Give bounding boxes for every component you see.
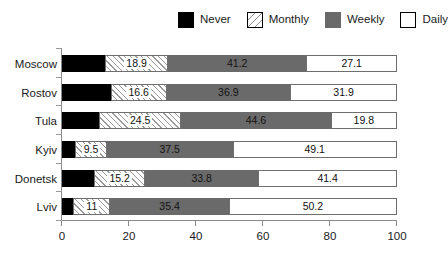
bar-value-label: 37.5 (158, 144, 180, 155)
y-tick-5 (56, 191, 62, 192)
bar-segment-never[interactable] (62, 84, 111, 101)
bar-segment-monthly[interactable]: 18.9 (105, 55, 168, 72)
bar-value-label: 24.5 (128, 115, 152, 126)
legend-swatch-weekly-icon (325, 12, 341, 28)
bar-segment-daily[interactable]: 49.1 (233, 141, 397, 158)
x-tick-label-40: 40 (190, 230, 203, 242)
legend-label-weekly: Weekly (347, 14, 385, 26)
bar-value-label: 41.4 (316, 173, 338, 184)
bar-segment-daily[interactable]: 41.4 (258, 170, 397, 187)
bar-value-label: 9.5 (82, 144, 101, 155)
x-tick-label-80: 80 (324, 230, 337, 242)
legend-label-daily: Daily (422, 14, 448, 26)
legend-label-never: Never (200, 14, 231, 26)
legend-label-monthly: Monthly (269, 14, 309, 26)
legend-item-monthly[interactable]: Monthly (247, 12, 309, 28)
y-category-label-donetsk: Donetsk (15, 173, 57, 185)
y-tick-6 (56, 220, 62, 221)
bar-segment-daily[interactable]: 31.9 (290, 84, 397, 101)
y-tick-4 (56, 163, 62, 164)
bar-segment-weekly[interactable]: 41.2 (168, 55, 306, 72)
x-tick-label-0: 0 (59, 230, 65, 242)
bar-segment-weekly[interactable]: 36.9 (167, 84, 291, 101)
bar-value-label: 11 (84, 201, 99, 212)
bar-value-label: 50.2 (302, 201, 324, 212)
bar-segment-daily[interactable]: 27.1 (306, 55, 397, 72)
chart-legend: Never Monthly Weekly Daily (178, 11, 448, 29)
bar-segment-never[interactable] (62, 141, 75, 158)
legend-swatch-never-icon (178, 12, 194, 28)
bar-value-label: 33.8 (190, 173, 212, 184)
bar-value-label: 18.9 (124, 58, 148, 69)
x-tick-20 (128, 220, 129, 226)
bar-segment-monthly[interactable]: 24.5 (99, 112, 181, 129)
bar-value-label: 44.6 (245, 115, 267, 126)
legend-item-daily[interactable]: Daily (400, 12, 448, 28)
bar-value-label: 15.2 (107, 173, 131, 184)
x-tick-100 (396, 220, 397, 226)
x-tick-label-60: 60 (257, 230, 270, 242)
y-tick-1 (56, 77, 62, 78)
bar-row: 1135.450.2 (62, 198, 397, 215)
bar-segment-monthly[interactable]: 15.2 (94, 170, 145, 187)
y-tick-2 (56, 105, 62, 106)
bar-segment-monthly[interactable]: 11 (73, 198, 110, 215)
legend-item-never[interactable]: Never (178, 12, 231, 28)
y-category-label-lviv: Lviv (37, 201, 57, 213)
bar-value-label: 31.9 (332, 87, 354, 98)
y-tick-0 (56, 48, 62, 49)
bar-segment-weekly[interactable]: 33.8 (145, 170, 258, 187)
y-category-label-tula: Tula (35, 115, 57, 127)
bar-value-label: 49.1 (304, 144, 326, 155)
bar-segment-weekly[interactable]: 35.4 (110, 198, 229, 215)
bar-segment-daily[interactable]: 50.2 (229, 198, 397, 215)
bar-segment-never[interactable] (62, 170, 94, 187)
x-tick-40 (195, 220, 196, 226)
x-tick-60 (262, 220, 263, 226)
bar-row: 15.233.841.4 (62, 170, 397, 187)
bar-value-label: 19.8 (353, 115, 375, 126)
plot-area: 020406080100 18.941.227.116.636.931.924.… (62, 48, 397, 220)
x-axis-line (61, 220, 397, 221)
legend-swatch-monthly-icon (247, 12, 263, 28)
y-tick-3 (56, 134, 62, 135)
x-tick-label-100: 100 (387, 230, 406, 242)
legend-swatch-daily-icon (400, 12, 416, 28)
bar-segment-weekly[interactable]: 44.6 (181, 112, 330, 129)
bar-segment-weekly[interactable]: 37.5 (107, 141, 233, 158)
bar-value-label: 27.1 (340, 58, 362, 69)
bar-segment-monthly[interactable]: 16.6 (111, 84, 167, 101)
bar-value-label: 41.2 (226, 58, 248, 69)
y-category-label-moscow: Moscow (15, 58, 57, 70)
bar-value-label: 36.9 (217, 87, 239, 98)
bar-value-label: 35.4 (158, 201, 180, 212)
bar-value-label: 16.6 (126, 87, 150, 98)
bar-row: 24.544.619.8 (62, 112, 397, 129)
bar-segment-daily[interactable]: 19.8 (331, 112, 397, 129)
y-category-label-kyiv: Kyiv (35, 144, 57, 156)
bar-segment-never[interactable] (62, 112, 99, 129)
bar-row: 16.636.931.9 (62, 84, 397, 101)
x-tick-80 (329, 220, 330, 226)
hatch-pattern-icon (248, 13, 262, 27)
bar-row: 18.941.227.1 (62, 55, 397, 72)
legend-item-weekly[interactable]: Weekly (325, 12, 385, 28)
bar-segment-monthly[interactable]: 9.5 (75, 141, 107, 158)
x-tick-label-20: 20 (123, 230, 136, 242)
bar-row: 9.537.549.1 (62, 141, 397, 158)
bar-segment-never[interactable] (62, 55, 105, 72)
bar-segment-never[interactable] (62, 198, 73, 215)
y-category-label-rostov: Rostov (21, 87, 57, 99)
